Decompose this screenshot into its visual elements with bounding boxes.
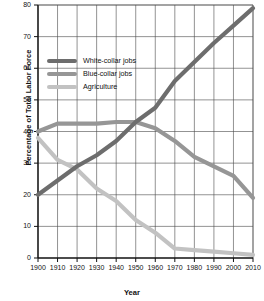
legend-swatch-white-collar [47, 59, 77, 63]
legend-label: White-collar jobs [83, 57, 136, 64]
legend-item: Blue-collar jobs [47, 68, 155, 80]
legend-swatch-agriculture [47, 85, 77, 89]
y-tick-label: 20 [7, 191, 31, 198]
y-tick-label: 70 [7, 33, 31, 40]
x-tick-label: 2010 [242, 264, 264, 271]
y-tick-label: 40 [7, 128, 31, 135]
y-tick-label: 80 [7, 1, 31, 8]
y-tick-label: 50 [7, 96, 31, 103]
legend-label: Agriculture [83, 83, 117, 90]
line-chart: Percentage of Total Labor Force Year 010… [0, 0, 264, 301]
y-tick-label: 0 [7, 254, 31, 261]
legend-label: Blue-collar jobs [83, 70, 132, 77]
chart-legend: White-collar jobs Blue-collar jobs Agric… [47, 55, 155, 94]
plot-area [0, 0, 264, 301]
legend-item: Agriculture [47, 81, 155, 93]
legend-swatch-blue-collar [47, 72, 77, 76]
y-tick-label: 30 [7, 159, 31, 166]
y-tick-label: 10 [7, 222, 31, 229]
legend-item: White-collar jobs [47, 55, 155, 67]
y-tick-label: 60 [7, 64, 31, 71]
